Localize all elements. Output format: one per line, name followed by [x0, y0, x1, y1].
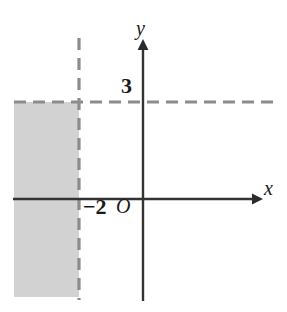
x-axis-arrowhead: [252, 194, 263, 205]
x-intercept-tick-label: −2: [83, 196, 107, 218]
y-axis-arrowhead: [138, 39, 149, 50]
origin-label: O: [116, 196, 130, 216]
x-axis-label: x: [264, 178, 273, 198]
y-axis: [138, 39, 149, 301]
graph-canvas: [0, 0, 287, 312]
y-axis-label: y: [136, 18, 145, 38]
y-intercept-tick-label: 3: [121, 75, 132, 97]
coordinate-plane-figure: y x 3 −2 O: [0, 0, 287, 312]
